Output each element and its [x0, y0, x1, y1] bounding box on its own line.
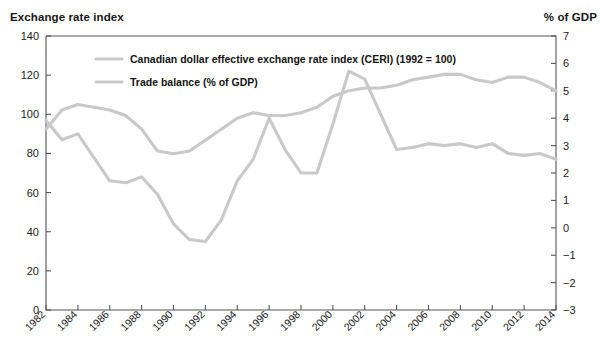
- x-tick-label: 1988: [118, 308, 143, 333]
- left-tick-label: 140: [21, 30, 39, 42]
- legend-label: Trade balance (% of GDP): [130, 76, 258, 88]
- left-tick-label: 20: [27, 265, 39, 277]
- x-tick-label: 1990: [150, 308, 175, 333]
- x-tick-label: 1986: [86, 308, 111, 333]
- series-line-0: [46, 74, 556, 153]
- series-lines: [46, 71, 556, 241]
- series-line-1: [46, 71, 556, 241]
- left-tick-label: 80: [27, 147, 39, 159]
- right-tick-label: 3: [563, 140, 569, 152]
- left-tick-label: 120: [21, 69, 39, 81]
- left-tick-label: 100: [21, 108, 39, 120]
- x-tick-label: 1994: [214, 308, 239, 333]
- legend-label: Canadian dollar effective exchange rate …: [130, 53, 456, 65]
- x-tick-label: 2004: [373, 308, 398, 333]
- x-tick-label: 1992: [182, 308, 207, 333]
- left-tick-label: 40: [27, 226, 39, 238]
- x-tick-label: 2000: [309, 308, 334, 333]
- right-tick-label: 1: [563, 194, 569, 206]
- x-tick-label: 2012: [501, 308, 526, 333]
- x-tick-label: 2006: [405, 308, 430, 333]
- right-tick-label: −2: [563, 277, 576, 289]
- chart-plot: 020406080100120140 −3−2−101234567 198219…: [0, 0, 606, 358]
- right-tick-label: 6: [563, 57, 569, 69]
- x-tick-label: 2002: [341, 308, 366, 333]
- x-tick-label: 2010: [469, 308, 494, 333]
- right-tick-label: 4: [563, 112, 569, 124]
- x-tick-label: 1996: [246, 308, 271, 333]
- right-tick-label: 0: [563, 222, 569, 234]
- right-tick-label: 5: [563, 85, 569, 97]
- x-tick-label: 1984: [54, 308, 79, 333]
- right-tick-label: −3: [563, 304, 576, 316]
- right-tick-label: 2: [563, 167, 569, 179]
- right-tick-label: −1: [563, 249, 576, 261]
- x-tick-label: 2008: [437, 308, 462, 333]
- chart-container: Exchange rate index % of GDP 02040608010…: [0, 0, 606, 358]
- right-axis: −3−2−101234567: [551, 30, 576, 316]
- x-tick-label: 2014: [532, 308, 557, 333]
- x-axis: 1982198419861988199019921994199619982000…: [22, 305, 557, 333]
- right-tick-label: 7: [563, 30, 569, 42]
- left-tick-label: 60: [27, 187, 39, 199]
- x-tick-label: 1982: [22, 308, 47, 333]
- x-tick-label: 1998: [277, 308, 302, 333]
